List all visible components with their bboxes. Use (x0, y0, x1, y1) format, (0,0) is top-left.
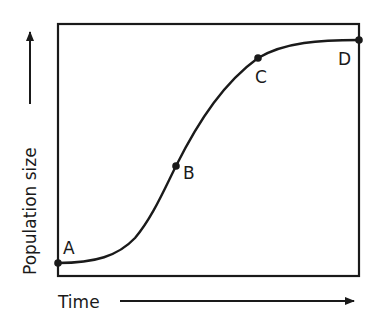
point-c-marker (254, 54, 262, 62)
x-axis-label: Time (57, 292, 100, 312)
point-c-label: C (255, 67, 267, 87)
point-b-marker (172, 162, 180, 170)
point-a-marker (54, 259, 62, 267)
point-d-label: D (338, 49, 351, 69)
point-a-label: A (63, 238, 75, 258)
growth-curve-svg: A B C D Population size Time (0, 0, 375, 329)
point-b-label: B (183, 163, 195, 183)
growth-curve-line (58, 40, 359, 263)
growth-curve-figure: A B C D Population size Time (0, 0, 375, 329)
plot-frame (58, 24, 359, 276)
y-axis-label: Population size (20, 147, 40, 275)
point-d-marker (355, 36, 363, 44)
